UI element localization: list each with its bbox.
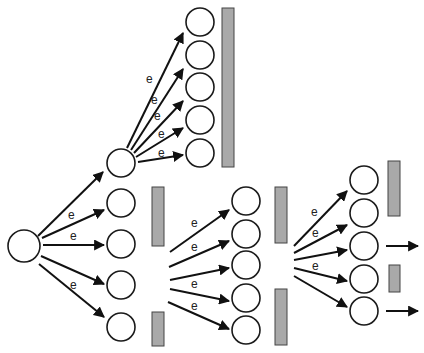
circle-node — [232, 187, 260, 215]
edge-label: e — [70, 229, 77, 243]
arrow-edge — [168, 302, 229, 329]
gray-bar — [388, 161, 400, 216]
edge-label: e — [68, 208, 75, 222]
gray-bar — [389, 265, 400, 292]
circle-node — [186, 8, 214, 36]
circle-node — [107, 271, 135, 299]
circle-node — [350, 297, 378, 325]
circle-node — [350, 166, 378, 194]
arrow-edge — [294, 276, 347, 307]
edge-label: e — [158, 127, 165, 141]
circle-node — [186, 41, 214, 69]
circle-node — [232, 316, 260, 344]
circle-node — [186, 139, 214, 167]
edge-label: e — [311, 205, 318, 219]
gray-bar — [152, 312, 164, 346]
circle-node — [107, 230, 135, 258]
circle-node — [232, 251, 260, 279]
circle-node — [186, 106, 214, 134]
source-node — [8, 230, 40, 262]
gray-bar — [152, 187, 164, 246]
branching-diagram: eeeeeeeeeeeeeee — [0, 0, 424, 353]
circle-node — [232, 220, 260, 248]
arrow-edge — [294, 250, 347, 260]
arrow-edge — [38, 172, 103, 236]
edge-label: e — [191, 299, 198, 313]
arrow-edge — [170, 289, 229, 301]
circle-node — [107, 149, 135, 177]
circle-node — [107, 313, 135, 341]
circle-node — [350, 199, 378, 227]
edge-label: e — [151, 93, 158, 107]
edge-label: e — [158, 146, 165, 160]
circle-node — [232, 284, 260, 312]
edge-label: e — [191, 216, 198, 230]
arrow-edge — [294, 191, 347, 246]
circle-node — [107, 189, 135, 217]
gray-bar — [275, 289, 287, 345]
arrow-edge — [170, 268, 229, 280]
edge-label: e — [312, 226, 319, 240]
edge-label: e — [146, 72, 153, 86]
edge-label: e — [191, 240, 198, 254]
edge-label: e — [191, 277, 198, 291]
edge-label: e — [312, 259, 319, 273]
arrow-edge — [294, 268, 347, 281]
circle-node — [350, 232, 378, 260]
edge-label: e — [70, 278, 77, 292]
circle-node — [186, 73, 214, 101]
gray-bar — [275, 187, 287, 243]
arrow-edge — [169, 241, 229, 267]
edge-label: e — [154, 109, 161, 123]
gray-bar — [222, 8, 234, 167]
circle-node — [350, 265, 378, 293]
